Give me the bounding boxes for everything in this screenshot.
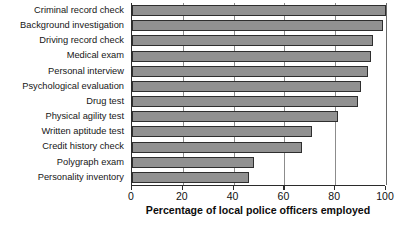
bar [132, 96, 358, 107]
category-label: Written aptitude test [0, 124, 128, 139]
category-label: Background investigation [0, 18, 128, 33]
category-label: Personality inventory [0, 170, 128, 185]
category-label: Polygraph exam [0, 155, 128, 170]
bar-row [132, 79, 386, 94]
category-label: Personal interview [0, 64, 128, 79]
bar [132, 111, 338, 122]
category-label: Drug test [0, 94, 128, 109]
category-label: Credit history check [0, 140, 128, 155]
bar-series [132, 3, 386, 185]
bar-row [132, 109, 386, 124]
x-axis-title: Percentage of local police officers empl… [131, 204, 385, 216]
bar-row [132, 33, 386, 48]
bar [132, 51, 371, 62]
bar-row [132, 49, 386, 64]
bar [132, 142, 302, 153]
x-tick-label: 60 [278, 189, 290, 203]
x-tick-label: 80 [328, 189, 340, 203]
category-label: Driving record check [0, 33, 128, 48]
x-tick-label: 0 [128, 189, 134, 203]
category-label: Psychological evaluation [0, 79, 128, 94]
bar-row [132, 94, 386, 109]
category-axis-labels: Criminal record checkBackground investig… [0, 3, 128, 185]
bar [132, 5, 386, 16]
bar [132, 157, 254, 168]
bar [132, 35, 373, 46]
x-tick-label: 40 [227, 189, 239, 203]
bar [132, 172, 249, 183]
bar-row [132, 140, 386, 155]
category-label: Physical agility test [0, 109, 128, 124]
bar [132, 66, 368, 77]
category-label: Criminal record check [0, 3, 128, 18]
plot-area [131, 3, 387, 185]
category-label: Medical exam [0, 49, 128, 64]
bar-row [132, 64, 386, 79]
bar [132, 81, 361, 92]
bar [132, 126, 312, 137]
bar-row [132, 124, 386, 139]
bar-chart: Criminal record checkBackground investig… [0, 0, 396, 225]
bar [132, 20, 383, 31]
bar-row [132, 18, 386, 33]
bar-row [132, 3, 386, 18]
x-tick-label: 100 [376, 189, 394, 203]
bar-row [132, 155, 386, 170]
x-tick-label: 20 [176, 189, 188, 203]
x-axis-tick-labels: 020406080100 [131, 189, 385, 203]
bar-row [132, 170, 386, 185]
